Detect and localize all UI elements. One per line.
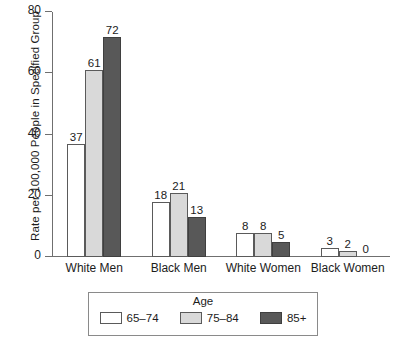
bar-value-label: 37 — [70, 131, 83, 143]
x-axis-category-label: White Women — [226, 261, 301, 275]
bar-value-label: 72 — [106, 24, 119, 36]
bar: 72 — [103, 37, 121, 258]
bar-value-label: 2 — [345, 238, 351, 250]
bar-value-label: 8 — [260, 220, 266, 232]
bar-value-label: 13 — [190, 204, 203, 216]
legend-item[interactable]: 75–84 — [180, 312, 239, 324]
bar-value-label: 0 — [363, 243, 369, 255]
x-axis-category-label: White Men — [66, 261, 123, 275]
bar: 37 — [67, 144, 85, 257]
y-tick: 60 — [45, 72, 52, 73]
legend-swatch — [100, 312, 122, 324]
bar: 5 — [272, 242, 290, 257]
legend-item-label: 85+ — [287, 312, 307, 324]
y-tick: 20 — [45, 195, 52, 196]
bar: 8 — [254, 233, 272, 258]
y-tick-label: 80 — [28, 3, 41, 17]
bar-value-label: 3 — [327, 235, 333, 247]
legend-item[interactable]: 65–74 — [100, 312, 159, 324]
y-tick-label: 40 — [28, 126, 41, 140]
plot-area: 020406080 376172182113885320 — [52, 12, 390, 257]
bar: 3 — [321, 248, 339, 257]
bar: 21 — [170, 193, 188, 257]
bar: 2 — [339, 251, 357, 257]
bar-value-label: 18 — [154, 189, 167, 201]
legend: Age 65–7475–8485+ — [88, 292, 318, 336]
bar-value-label: 61 — [88, 57, 101, 69]
x-axis-category-labels: White MenBlack MenWhite WomenBlack Women — [52, 261, 390, 281]
legend-items: 65–7475–8485+ — [89, 312, 317, 324]
bar-value-label: 8 — [242, 220, 248, 232]
bar: 61 — [85, 70, 103, 257]
bar-chart: Rate per 100,000 People in Specified Gro… — [0, 0, 400, 345]
y-tick: 40 — [45, 134, 52, 135]
y-tick: 80 — [45, 11, 52, 12]
legend-item[interactable]: 85+ — [260, 312, 307, 324]
legend-title: Age — [89, 295, 317, 307]
y-tick: 0 — [45, 256, 52, 257]
bar: 8 — [236, 233, 254, 258]
bar-value-label: 21 — [172, 180, 185, 192]
bar-value-label: 5 — [278, 229, 284, 241]
bars-layer: 376172182113885320 — [52, 12, 390, 257]
x-axis-category-label: Black Men — [151, 261, 207, 275]
legend-item-label: 75–84 — [207, 312, 239, 324]
bar: 18 — [152, 202, 170, 257]
legend-swatch — [180, 312, 202, 324]
legend-swatch — [260, 312, 282, 324]
bar: 13 — [188, 217, 206, 257]
y-tick-label: 60 — [28, 64, 41, 78]
y-tick-label: 0 — [34, 248, 41, 262]
y-tick-label: 20 — [28, 187, 41, 201]
legend-item-label: 65–74 — [127, 312, 159, 324]
x-axis-category-label: Black Women — [311, 261, 385, 275]
